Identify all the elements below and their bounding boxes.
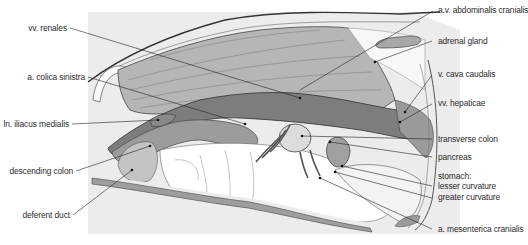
label-ln-iliacus-medialis: ln. iliacus medialis xyxy=(0,119,69,129)
label-adrenal-gland: adrenal gland xyxy=(438,36,487,46)
label-av-abdominalis-cranialis: a.v. abdominalis cranialis xyxy=(438,5,528,15)
label-transverse-colon: transverse colon xyxy=(438,134,498,144)
label-lesser-curvature: lesser curvature xyxy=(438,181,496,191)
label-deferent-duct: deferent duct xyxy=(0,210,70,220)
label-descending-colon: descending colon xyxy=(0,166,73,176)
label-vv-hepaticae: vv. hepaticae xyxy=(438,98,485,108)
label-stomach: stomach: xyxy=(438,171,471,181)
label-v-cava-caudalis: v. cava caudalis xyxy=(438,69,495,79)
label-a-mesenterica-cranialis: a. mesenterica cranialis xyxy=(438,224,524,234)
label-vv-renales: vv. renales xyxy=(0,23,67,33)
label-pancreas: pancreas xyxy=(438,152,472,162)
transverse-colon-ring xyxy=(279,124,311,152)
label-greater-curvature: greater curvature xyxy=(438,192,500,202)
label-a-colica-sinistra: a. colica sinistra xyxy=(0,72,85,82)
